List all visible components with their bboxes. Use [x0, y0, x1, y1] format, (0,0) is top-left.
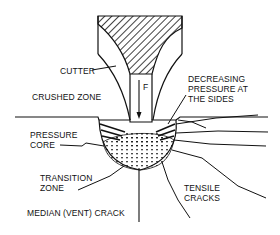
cutter-body	[98, 16, 182, 120]
label-decreasing-pressure-1: DECREASING	[188, 74, 245, 84]
diagram-drawing	[0, 0, 280, 235]
label-pressure-core-2: CORE	[30, 140, 55, 150]
label-crushed-zone: CRUSHED ZONE	[32, 92, 101, 102]
label-force: F	[143, 82, 148, 92]
label-tensile-cracks-1: TENSILE	[184, 183, 220, 193]
label-decreasing-pressure-3: THE SIDES	[188, 94, 234, 104]
force-arrow	[137, 80, 142, 119]
label-median-crack: MEDIAN (VENT) CRACK	[27, 208, 125, 218]
crushed-zone	[99, 120, 176, 170]
label-cutter: CUTTER	[60, 66, 95, 76]
rock-cutting-diagram: CUTTER F CRUSHED ZONE DECREASING PRESSUR…	[0, 0, 280, 235]
label-tensile-cracks-2: CRACKS	[184, 193, 220, 203]
label-transition-zone-1: TRANSITION	[40, 173, 92, 183]
label-pressure-core-1: PRESSURE	[30, 130, 78, 140]
label-decreasing-pressure-2: PRESSURE AT	[188, 84, 248, 94]
label-transition-zone-2: ZONE	[40, 183, 64, 193]
